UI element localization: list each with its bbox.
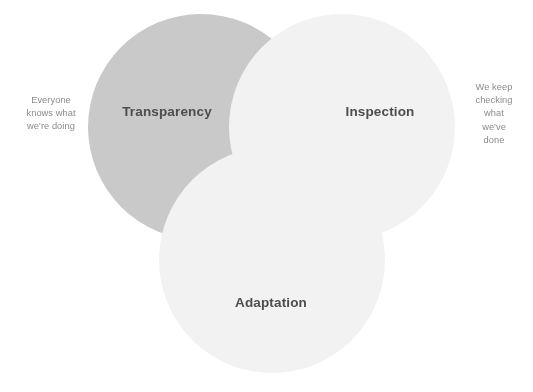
annotation-left-line-3: we're doing [26, 121, 75, 134]
label-adaptation: Adaptation [235, 295, 307, 310]
venn-diagram: Transparency Inspection Adaptation Every… [0, 0, 533, 392]
annotation-inspection-right: We keep checking what we've done [475, 81, 514, 147]
annotation-right-line-4: done [475, 134, 514, 147]
circle-adaptation[interactable] [159, 147, 385, 373]
annotation-right-line-1: We keep [475, 81, 514, 94]
venn-circles-group [0, 0, 533, 392]
annotation-right-line-2: checking [475, 94, 514, 107]
annotation-transparency-left: Everyone knows what we're doing [26, 94, 75, 134]
label-inspection: Inspection [345, 104, 414, 119]
annotation-left-line-1: Everyone [26, 94, 75, 107]
annotation-right-line-3: what we've [475, 107, 514, 133]
label-transparency: Transparency [122, 104, 212, 119]
annotation-left-line-2: knows what [26, 107, 75, 120]
